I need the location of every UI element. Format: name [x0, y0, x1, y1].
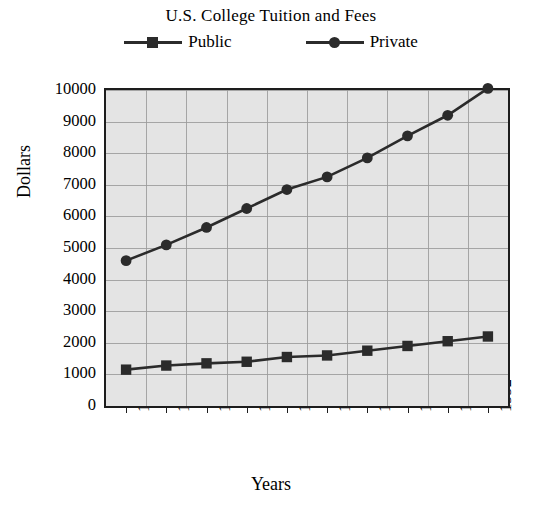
datapoint-public-1985[interactable]	[201, 358, 211, 368]
chart-legend: Public Private	[0, 32, 542, 52]
datapoint-public-1992[interactable]	[483, 331, 493, 341]
x-tickmark-1983	[126, 408, 127, 413]
datapoint-private-1991[interactable]	[442, 110, 453, 121]
datapoint-private-1984[interactable]	[161, 239, 172, 250]
chart-container: U.S. College Tuition and Fees Public Pri…	[0, 0, 542, 506]
y-tick-5000: 5000	[63, 237, 96, 257]
datapoint-public-1986[interactable]	[242, 357, 252, 367]
y-tick-10000: 10000	[55, 79, 96, 99]
x-tickmark-1987	[287, 408, 288, 413]
chart-title: U.S. College Tuition and Fees	[0, 6, 542, 26]
legend-entry-private: Private	[306, 32, 418, 52]
datapoint-private-1989[interactable]	[362, 153, 373, 164]
datapoint-private-1983[interactable]	[121, 255, 132, 266]
legend-marker-square-icon	[124, 34, 182, 50]
series-layer	[106, 90, 508, 406]
datapoint-public-1990[interactable]	[402, 341, 412, 351]
x-tickmark-1992	[488, 408, 489, 413]
y-tick-2000: 2000	[63, 332, 96, 352]
x-tickmark-1985	[207, 408, 208, 413]
datapoint-private-1985[interactable]	[201, 222, 212, 233]
y-tick-0: 0	[88, 395, 96, 415]
plot-area	[104, 88, 510, 408]
datapoint-public-1988[interactable]	[322, 350, 332, 360]
y-tick-1000: 1000	[63, 363, 96, 383]
series-line-private	[126, 88, 488, 260]
y-tick-9000: 9000	[63, 111, 96, 131]
series-line-public	[126, 336, 488, 369]
y-tick-8000: 8000	[63, 142, 96, 162]
datapoint-private-1992[interactable]	[483, 83, 494, 94]
datapoint-private-1986[interactable]	[241, 203, 252, 214]
x-tickmark-1991	[448, 408, 449, 413]
x-axis-title: Years	[0, 474, 542, 495]
datapoint-public-1991[interactable]	[443, 336, 453, 346]
x-tickmark-1988	[327, 408, 328, 413]
legend-label-private: Private	[370, 32, 418, 52]
legend-marker-circle-icon	[306, 34, 364, 50]
datapoint-public-1983[interactable]	[121, 364, 131, 374]
datapoint-private-1990[interactable]	[402, 130, 413, 141]
datapoint-public-1989[interactable]	[362, 346, 372, 356]
y-tick-7000: 7000	[63, 174, 96, 194]
x-tickmark-1989	[367, 408, 368, 413]
legend-label-public: Public	[188, 32, 231, 52]
x-tickmark-1990	[408, 408, 409, 413]
x-tickmark-1984	[166, 408, 167, 413]
datapoint-public-1984[interactable]	[161, 360, 171, 370]
y-axis-title: Dollars	[14, 145, 35, 198]
x-tickmark-1986	[247, 408, 248, 413]
y-tick-3000: 3000	[63, 300, 96, 320]
y-tick-6000: 6000	[63, 205, 96, 225]
datapoint-private-1988[interactable]	[322, 172, 333, 183]
legend-entry-public: Public	[124, 32, 231, 52]
datapoint-public-1987[interactable]	[282, 352, 292, 362]
y-tick-4000: 4000	[63, 269, 96, 289]
datapoint-private-1987[interactable]	[282, 184, 293, 195]
